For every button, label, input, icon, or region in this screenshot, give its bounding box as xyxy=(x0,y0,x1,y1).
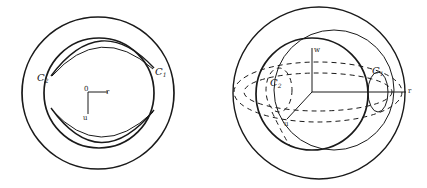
left-figure: C2 C1 0 r u xyxy=(22,17,174,169)
left-label-c1: C1 xyxy=(155,66,166,78)
right-label-w: w xyxy=(314,46,320,54)
right-figure: w r u C2 C1 xyxy=(233,7,412,179)
right-label-u: u xyxy=(284,120,289,128)
right-label-r: r xyxy=(408,87,412,95)
left-label-u: u xyxy=(83,114,88,122)
diagram-canvas: C2 C1 0 r u w r u C2 C1 xyxy=(0,0,427,188)
left-inner-circle xyxy=(44,38,154,148)
right-label-c1: C1 xyxy=(372,65,383,77)
left-label-origin: 0 xyxy=(84,85,88,93)
right-u-axis xyxy=(287,92,312,119)
left-label-r: r xyxy=(106,88,110,96)
right-outer-circle xyxy=(233,7,405,179)
right-label-c2: C2 xyxy=(270,77,282,89)
left-upper-arc-inner xyxy=(52,47,153,76)
